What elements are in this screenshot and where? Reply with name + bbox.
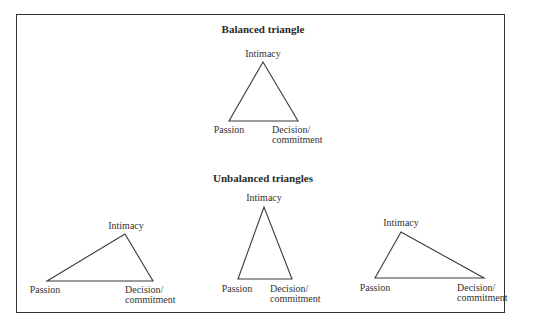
unbalanced-triangle-1-shape [47, 234, 153, 281]
left-label-passion: Passion [222, 283, 253, 294]
right-label-commitment: commitment [270, 293, 321, 304]
left-label-passion: Passion [360, 282, 391, 293]
apex-label-intimacy: Intimacy [245, 48, 281, 59]
apex-label-intimacy: Intimacy [246, 192, 282, 203]
right-label-commitment: commitment [272, 134, 323, 145]
unbalanced-triangle-2-shape [238, 207, 292, 279]
left-label-passion: Passion [214, 124, 245, 135]
unbalanced-triangle-1: Intimacy Passion Decision/ commitment [30, 220, 176, 305]
balanced-section-title: Balanced triangle [222, 23, 305, 35]
unbalanced-triangle-3: Intimacy Passion Decision/ commitment [360, 217, 508, 303]
left-label-passion: Passion [30, 284, 61, 295]
apex-label-intimacy: Intimacy [108, 220, 144, 231]
unbalanced-triangle-2: Intimacy Passion Decision/ commitment [222, 192, 321, 304]
balanced-triangle-shape [229, 62, 298, 121]
balanced-triangle: Intimacy Passion Decision/ commitment [214, 48, 323, 145]
unbalanced-section-title: Unbalanced triangles [213, 172, 314, 184]
unbalanced-triangle-3-shape [375, 232, 484, 278]
apex-label-intimacy: Intimacy [383, 217, 419, 228]
right-label-commitment: commitment [457, 292, 508, 303]
right-label-commitment: commitment [125, 294, 176, 305]
triangle-diagram: Balanced triangle Intimacy Passion Decis… [0, 0, 540, 328]
